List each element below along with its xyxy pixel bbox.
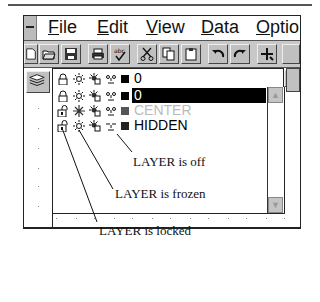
sun-thawed-icon[interactable] bbox=[72, 119, 85, 132]
menu-view-label: iew bbox=[158, 17, 185, 37]
layer-list-scrollbar[interactable]: ▲ ▼ bbox=[267, 87, 284, 213]
menu-options[interactable]: Optio bbox=[256, 17, 299, 38]
scissors-icon bbox=[140, 47, 154, 61]
layer-row[interactable]: HIDDEN bbox=[53, 118, 268, 133]
menu-file-label: ile bbox=[59, 17, 77, 37]
menu-data-mnemonic: D bbox=[201, 17, 214, 37]
crosshair-snap-icon bbox=[260, 47, 274, 61]
locked-padlock-icon[interactable] bbox=[56, 104, 69, 117]
layer-name: 0 bbox=[132, 88, 266, 103]
new-file-icon bbox=[25, 47, 37, 61]
sun-viewport-icon[interactable] bbox=[88, 89, 101, 102]
arrow-down-icon: ▼ bbox=[271, 200, 280, 210]
sun-viewport-icon[interactable] bbox=[88, 104, 101, 117]
system-menu-button[interactable] bbox=[24, 16, 37, 40]
open-folder-icon bbox=[42, 47, 56, 61]
undo-button[interactable] bbox=[208, 44, 228, 64]
layer-dropdown[interactable]: 0 ▼ bbox=[52, 68, 284, 88]
sun-thawed-icon[interactable] bbox=[72, 89, 85, 102]
layer-on-face-icon[interactable] bbox=[104, 104, 117, 117]
menu-edit-mnemonic: E bbox=[97, 17, 109, 37]
right-toolbar-edge bbox=[286, 68, 300, 92]
spell-check-button[interactable]: abc bbox=[110, 44, 130, 64]
menu-view[interactable]: View bbox=[146, 17, 185, 38]
layer-row[interactable]: CENTER bbox=[53, 103, 268, 118]
layer-row-icons bbox=[56, 103, 133, 118]
copy-button[interactable] bbox=[159, 44, 179, 64]
callout-layer-off: LAYER is off bbox=[133, 154, 205, 170]
layer-dropdown-icons bbox=[56, 71, 133, 86]
layer-row-icons bbox=[56, 88, 133, 103]
toolbar-overflow-button[interactable] bbox=[282, 44, 300, 64]
toolbar: abc bbox=[24, 41, 300, 68]
copy-icon bbox=[162, 47, 176, 61]
clipboard-icon bbox=[184, 47, 198, 61]
open-file-button[interactable] bbox=[39, 44, 59, 64]
unlocked-padlock-icon bbox=[56, 72, 69, 85]
layer-row-icons bbox=[56, 118, 133, 133]
svg-text:abc: abc bbox=[114, 47, 125, 54]
callout-layer-frozen: LAYER is frozen bbox=[115, 186, 206, 202]
layer-color-swatch[interactable] bbox=[121, 107, 129, 115]
print-button[interactable] bbox=[88, 44, 108, 64]
layer-color-swatch[interactable] bbox=[121, 122, 129, 130]
layer-color-swatch[interactable] bbox=[121, 92, 129, 100]
scroll-down-button[interactable]: ▼ bbox=[268, 197, 283, 213]
menu-file-mnemonic: F bbox=[48, 17, 59, 37]
arrow-up-icon: ▲ bbox=[271, 90, 280, 100]
layers-button[interactable] bbox=[26, 71, 50, 93]
sun-viewport-icon bbox=[88, 72, 101, 85]
floppy-disk-icon bbox=[64, 47, 78, 61]
sun-viewport-icon[interactable] bbox=[88, 119, 101, 132]
layers-icon bbox=[27, 72, 47, 90]
scroll-up-button[interactable]: ▲ bbox=[268, 87, 283, 103]
menu-edit[interactable]: Edit bbox=[97, 17, 128, 38]
undo-icon bbox=[211, 47, 225, 61]
menu-options-mnemonic: O bbox=[256, 17, 270, 37]
save-button[interactable] bbox=[61, 44, 81, 64]
layer-name: HIDDEN bbox=[132, 118, 188, 133]
new-file-button[interactable] bbox=[24, 44, 38, 64]
printer-icon bbox=[91, 47, 105, 61]
snap-button[interactable] bbox=[257, 44, 277, 64]
layer-dropdown-current: 0 bbox=[53, 71, 268, 86]
layer-off-face-icon[interactable] bbox=[104, 119, 117, 132]
unlocked-padlock-icon[interactable] bbox=[56, 89, 69, 102]
paste-button[interactable] bbox=[181, 44, 201, 64]
layer-name: 0 bbox=[132, 71, 142, 86]
menu-data[interactable]: Data bbox=[201, 17, 239, 38]
locked-padlock-icon[interactable] bbox=[56, 119, 69, 132]
menu-data-label: ata bbox=[214, 17, 239, 37]
menu-file[interactable]: File bbox=[48, 17, 77, 38]
layer-on-face-icon bbox=[104, 72, 117, 85]
redo-button[interactable] bbox=[230, 44, 250, 64]
menu-view-mnemonic: V bbox=[146, 17, 158, 37]
menu-options-label: ptio bbox=[270, 17, 299, 37]
spell-check-icon: abc bbox=[113, 47, 127, 61]
menu-edit-label: dit bbox=[109, 17, 128, 37]
layer-row[interactable]: 0 bbox=[53, 88, 268, 103]
top-rule bbox=[8, 4, 312, 6]
sun-thawed-icon bbox=[72, 72, 85, 85]
snowflake-frozen-icon[interactable] bbox=[72, 104, 85, 117]
redo-icon bbox=[233, 47, 247, 61]
menu-bar: File Edit View Data Optio bbox=[24, 16, 300, 41]
callout-layer-locked: LAYER is locked bbox=[99, 223, 191, 239]
layer-color-swatch bbox=[121, 75, 129, 83]
cut-button[interactable] bbox=[137, 44, 157, 64]
layer-name: CENTER bbox=[132, 103, 192, 118]
layer-on-face-icon[interactable] bbox=[104, 89, 117, 102]
